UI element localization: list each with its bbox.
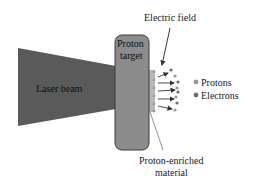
electric-field-pointer: [162, 28, 170, 65]
target-label-line1: Proton: [117, 38, 144, 49]
legend-protons-label: Protons: [201, 77, 232, 88]
material-label-line1: Proton-enriched: [139, 155, 203, 166]
legend-protons-dot: [194, 80, 199, 85]
legend-electrons-label: Electrons: [201, 90, 239, 101]
legend-electrons-dot: [194, 93, 199, 98]
proton-arrows: [158, 73, 175, 109]
target-label-line2: target: [120, 50, 143, 61]
laser-beam-label: Laser beam: [36, 83, 82, 94]
laser-proton-diagram: Laser beam Proton target Electric field …: [0, 0, 254, 187]
material-label-line2: material: [155, 167, 188, 178]
enriched-material-pointer: [150, 112, 163, 150]
electric-field-label: Electric field: [144, 12, 196, 23]
